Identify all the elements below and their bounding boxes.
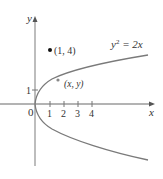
x-tick-label-4: 4 bbox=[89, 108, 94, 119]
origin-label: 0 bbox=[28, 106, 34, 118]
parabola-diagram: y x 0 1 2 3 4 1 (1, 4) (x, y) y2 = 2x bbox=[0, 0, 163, 179]
x-axis-label: x bbox=[148, 106, 154, 118]
equation-label: y2 = 2x bbox=[110, 38, 143, 50]
point-1-4 bbox=[48, 48, 52, 52]
y-axis-label: y bbox=[26, 12, 32, 24]
y-tick-label-1: 1 bbox=[26, 85, 31, 96]
parabola-upper-branch bbox=[35, 55, 148, 104]
y-axis-arrow-icon bbox=[33, 16, 38, 22]
point-x-y bbox=[56, 78, 59, 81]
x-tick-label-1: 1 bbox=[47, 108, 52, 119]
point-x-y-label: (x, y) bbox=[64, 79, 84, 90]
x-tick-label-3: 3 bbox=[75, 108, 80, 119]
x-tick-label-2: 2 bbox=[61, 108, 66, 119]
point-1-4-label: (1, 4) bbox=[54, 45, 76, 57]
